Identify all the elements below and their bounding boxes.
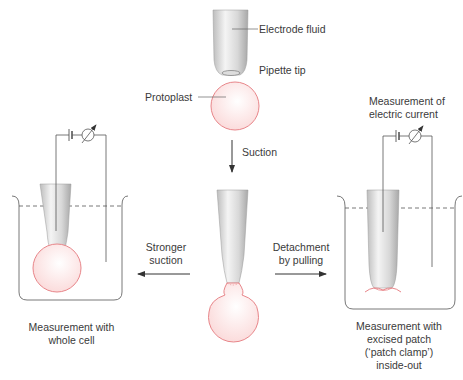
right-beaker [337,126,462,309]
label-electrode-fluid: Electrode fluid [259,23,326,36]
label-suction: Suction [242,146,277,159]
top-pipette [213,10,258,76]
left-beaker [12,125,128,300]
label-detachment: Detachment by pulling [268,241,334,267]
excised-patch [365,288,401,292]
middle-pipette [209,190,259,342]
label-pipette-tip: Pipette tip [259,64,306,77]
protoplast [198,82,259,130]
label-excised-patch: Measurement with excised patch (‘patch c… [340,320,458,372]
pipette-tip-opening [222,71,240,76]
label-stronger-suction: Stronger suction [140,241,192,267]
label-protoplast: Protoplast [145,91,192,104]
cell-with-patch [209,283,259,342]
whole-cell [33,244,81,292]
label-measurement-current: Measurement of electric current [369,95,445,121]
label-whole-cell: Measurement with whole cell [14,321,129,347]
